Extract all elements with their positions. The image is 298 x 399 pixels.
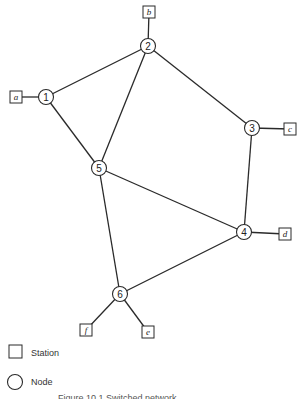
nodes: 123456: [39, 39, 260, 302]
station-c: c: [284, 123, 296, 135]
link-3-4: [244, 128, 252, 232]
node-6: 6: [113, 287, 128, 302]
node-2: 2: [141, 39, 156, 54]
node-label: 4: [241, 227, 247, 238]
station-e: e: [142, 326, 154, 338]
station-label: a: [14, 92, 19, 102]
node-label: 2: [145, 41, 151, 52]
network-links: [46, 46, 252, 294]
station-label: e: [146, 327, 150, 337]
node-3: 3: [245, 121, 260, 136]
figure-caption: Figure 10.1 Switched network: [58, 393, 177, 399]
station-f: f: [80, 324, 92, 336]
station-b: b: [143, 6, 155, 18]
station-label: b: [147, 7, 152, 17]
legend-station-label: Station: [31, 348, 59, 358]
node-label: 1: [43, 92, 49, 103]
link-1-2: [46, 46, 148, 97]
link-5-6: [99, 168, 120, 294]
node-5: 5: [92, 161, 107, 176]
legend-node-label: Node: [31, 377, 53, 387]
legend-station-icon: [9, 345, 22, 358]
legend-node-icon: [8, 375, 23, 390]
switched-network-diagram: abcdfe 123456: [0, 0, 298, 399]
node-label: 6: [117, 289, 123, 300]
link-5-4: [99, 168, 244, 232]
stations: abcdfe: [10, 6, 296, 338]
station-d: d: [279, 228, 291, 240]
link-2-3: [148, 46, 252, 128]
station-label: d: [283, 229, 288, 239]
link-6-4: [120, 232, 244, 294]
station-label: c: [288, 124, 292, 134]
node-1: 1: [39, 90, 54, 105]
node-4: 4: [237, 225, 252, 240]
node-label: 3: [249, 123, 255, 134]
station-a: a: [10, 91, 22, 103]
link-2-5: [99, 46, 148, 168]
node-label: 5: [96, 163, 102, 174]
link-1-5: [46, 97, 99, 168]
